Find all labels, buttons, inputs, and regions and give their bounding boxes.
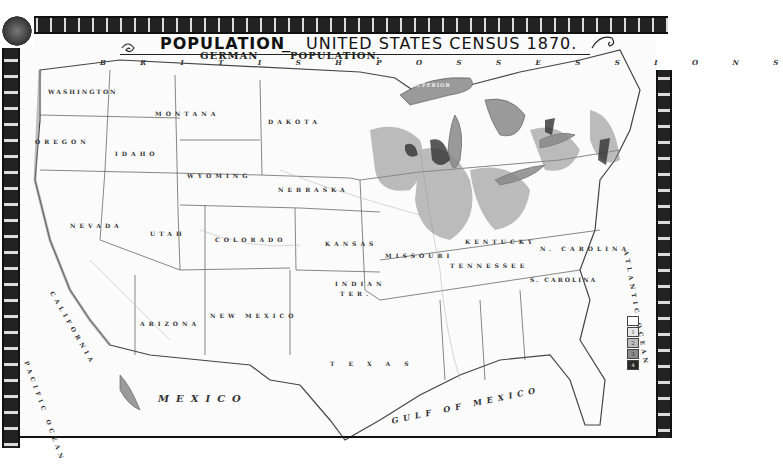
label-british-possessions: B R I T I S H P O S S E S S I O N S [100, 58, 783, 67]
legend-bin-2: 2 [627, 338, 639, 348]
label-mexico: MEXICO [158, 393, 248, 404]
label-utah: UTAH [150, 230, 186, 237]
label-texas: TEXAS [330, 360, 422, 367]
legend-bin-0 [627, 316, 639, 326]
label-idaho: IDAHO [115, 150, 159, 157]
label-kansas: KANSAS [325, 240, 377, 247]
label-oregon: OREGON [35, 138, 90, 145]
legend-bin-4: 4 [627, 360, 639, 370]
label-nevada: NEVADA [70, 222, 123, 229]
label-indian-ter-2: TER. [340, 290, 372, 297]
label-n-carolina: N. CAROLINA [540, 245, 630, 252]
bottom-rule [18, 436, 658, 438]
label-nebraska: NEBRASKA [278, 186, 349, 193]
decorative-border-left [2, 20, 20, 448]
label-washington: WASHINGTON [48, 88, 118, 95]
legend: 1 2 3 4 [627, 316, 639, 371]
label-colorado: COLORADO [215, 236, 287, 243]
label-lake-superior: SUPERIOR [412, 82, 451, 88]
label-indian-ter: INDIAN [335, 280, 385, 287]
label-s-carolina: S. CAROLINA [530, 276, 597, 283]
ornament-corner-icon [0, 14, 34, 48]
title-dash: _ [282, 33, 290, 52]
label-missouri: MISSOURI [385, 252, 453, 259]
legend-bin-1: 1 [627, 327, 639, 337]
legend-bin-3: 3 [627, 349, 639, 359]
label-dakota: DAKOTA [268, 118, 321, 125]
label-montana: MONTANA [155, 110, 219, 117]
label-kentucky: KENTUCKY [465, 238, 536, 245]
label-tennessee: TENNESSEE [450, 262, 528, 269]
label-new-mexico: NEW MEXICO [210, 312, 298, 319]
label-arizona: ARIZONA [140, 320, 200, 327]
label-wyoming: WYOMING [187, 172, 251, 179]
decorative-border-right [656, 70, 672, 438]
